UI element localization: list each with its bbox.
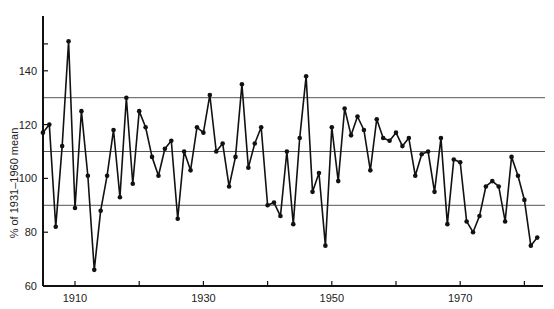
x-tick-label: 1930 — [191, 292, 215, 304]
data-point — [522, 198, 527, 203]
data-point — [297, 136, 302, 141]
data-point — [355, 114, 360, 119]
data-point — [291, 222, 296, 227]
data-point — [342, 106, 347, 111]
data-point — [86, 173, 91, 178]
data-point — [439, 136, 444, 141]
data-point — [137, 109, 142, 114]
data-point — [278, 214, 283, 219]
data-point — [381, 136, 386, 141]
data-point — [208, 93, 213, 98]
data-point — [323, 243, 328, 248]
data-point — [227, 184, 232, 189]
data-point — [285, 149, 290, 154]
data-point — [272, 200, 277, 205]
data-point — [73, 206, 78, 211]
data-point — [240, 82, 245, 87]
data-point — [432, 190, 437, 195]
data-point — [220, 141, 225, 146]
data-point — [535, 235, 540, 240]
data-point — [477, 214, 482, 219]
data-point — [362, 128, 367, 133]
data-point — [407, 136, 412, 141]
data-point — [259, 125, 264, 130]
data-point — [195, 125, 200, 130]
data-point — [496, 184, 501, 189]
data-point — [111, 128, 116, 133]
data-point — [105, 173, 110, 178]
data-point — [265, 203, 270, 208]
data-point — [130, 181, 135, 186]
data-point — [413, 173, 418, 178]
data-point — [246, 165, 251, 170]
data-point — [169, 138, 174, 143]
data-point — [400, 144, 405, 149]
data-point — [387, 138, 392, 143]
data-point — [150, 155, 155, 160]
data-point — [458, 160, 463, 165]
data-point — [124, 95, 129, 100]
data-point — [47, 122, 52, 127]
data-point — [310, 190, 315, 195]
line-chart: % of 1931–1960 mean 60801001201401910193… — [0, 0, 554, 309]
data-point — [529, 243, 534, 248]
data-point — [471, 230, 476, 235]
data-point — [252, 141, 257, 146]
data-point — [484, 184, 489, 189]
data-point — [394, 130, 399, 135]
data-point — [368, 168, 373, 173]
data-point — [330, 125, 335, 130]
data-point — [490, 179, 495, 184]
data-point — [451, 157, 456, 162]
data-point — [53, 225, 58, 230]
data-point — [214, 149, 219, 154]
data-point — [233, 155, 238, 160]
data-point — [201, 130, 206, 135]
data-line — [43, 41, 537, 270]
data-point — [445, 222, 450, 227]
x-tick-label: 1910 — [63, 292, 87, 304]
y-tick-label: 60 — [25, 280, 37, 292]
data-point — [509, 155, 514, 160]
y-tick-label: 80 — [25, 226, 37, 238]
data-point — [188, 168, 193, 173]
data-point — [163, 147, 168, 152]
y-tick-label: 140 — [19, 65, 37, 77]
data-point — [41, 130, 46, 135]
data-point — [182, 149, 187, 154]
data-point — [419, 152, 424, 157]
x-tick-label: 1970 — [448, 292, 472, 304]
data-point — [317, 171, 322, 176]
plot-area: 60801001201401910193019501970 — [0, 0, 554, 309]
data-point — [175, 216, 180, 221]
data-point — [60, 144, 65, 149]
data-point — [426, 149, 431, 154]
data-point — [349, 133, 354, 138]
data-point — [464, 219, 469, 224]
data-point — [374, 117, 379, 122]
data-point — [156, 173, 161, 178]
data-point — [92, 268, 97, 273]
data-point — [66, 39, 71, 44]
data-point — [79, 109, 84, 114]
x-tick-label: 1950 — [320, 292, 344, 304]
data-point — [143, 125, 148, 130]
data-point — [503, 219, 508, 224]
data-point — [118, 195, 123, 200]
y-axis-label: % of 1931–1960 mean — [2, 88, 26, 278]
data-point — [98, 208, 103, 213]
data-point — [336, 179, 341, 184]
data-point — [516, 173, 521, 178]
data-point — [304, 74, 309, 79]
